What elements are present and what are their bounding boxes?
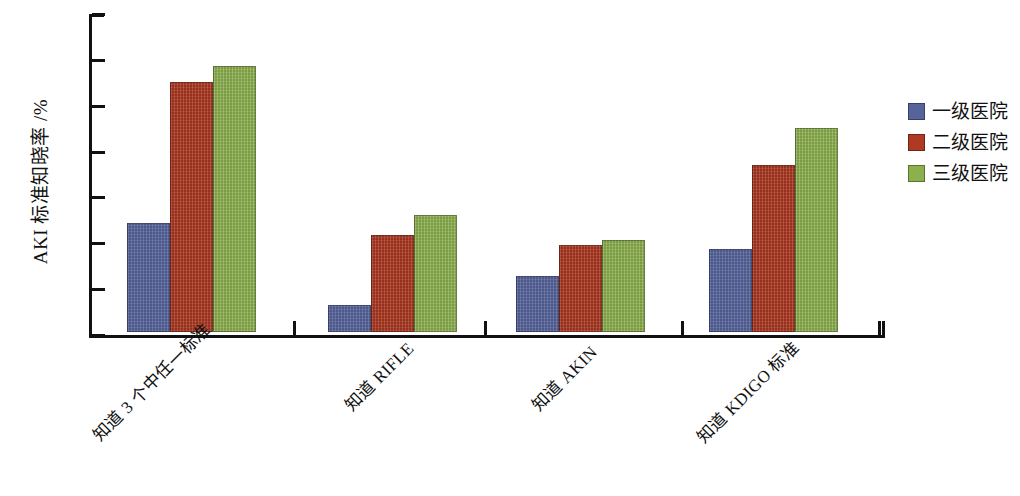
bar: [602, 240, 645, 332]
x-axis-tick: [878, 321, 881, 336]
legend-swatch-icon: [908, 165, 925, 182]
legend-label: 二级医院: [932, 133, 1008, 152]
x-axis-tick: [293, 321, 296, 336]
bar: [213, 66, 256, 332]
legend-item: 三级医院: [908, 158, 1008, 189]
legend: 一级医院二级医院三级医院: [908, 96, 1008, 189]
bar: [371, 235, 414, 332]
x-axis-tick: [681, 321, 684, 336]
y-axis-tick: [92, 288, 105, 291]
x-axis-tick: [484, 321, 487, 336]
legend-swatch-icon: [908, 134, 925, 151]
x-category-label: 知道 AKIN: [525, 339, 602, 416]
y-axis-tick: [92, 334, 105, 337]
bar: [752, 165, 795, 332]
legend-swatch-icon: [908, 103, 925, 120]
legend-label: 三级医院: [932, 164, 1008, 183]
y-axis-tick: [92, 59, 105, 62]
bar-chart: AKI 标准知晓率 /% 706050403020100 知道 3 个中任一标准…: [0, 0, 1020, 496]
bar: [170, 82, 213, 332]
bar: [414, 215, 457, 332]
y-axis-tick: [92, 13, 105, 16]
legend-item: 一级医院: [908, 96, 1008, 127]
legend-label: 一级医院: [932, 102, 1008, 121]
bar: [709, 249, 752, 332]
x-category-label: 知道 KDIGO 标准: [690, 334, 804, 448]
legend-item: 二级医院: [908, 127, 1008, 158]
bar: [516, 276, 559, 332]
bar: [795, 128, 838, 332]
y-axis-tick: [92, 242, 105, 245]
y-axis-title: AKI 标准知晓率 /%: [25, 62, 52, 302]
bar: [127, 223, 170, 332]
y-axis-tick: [92, 196, 105, 199]
y-axis-tick: [92, 151, 105, 154]
x-axis-right-cap: [882, 321, 885, 338]
bar: [328, 305, 371, 333]
bar: [559, 245, 602, 332]
x-category-label: 知道 RIFLE: [338, 335, 418, 415]
plot-area: [89, 14, 885, 335]
y-axis-tick: [92, 105, 105, 108]
